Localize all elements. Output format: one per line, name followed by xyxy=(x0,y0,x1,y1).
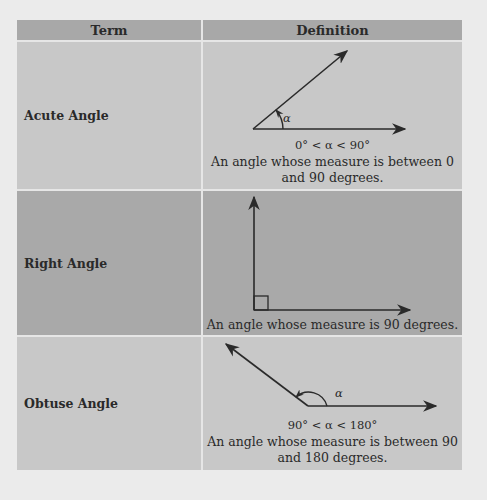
header-term: Term xyxy=(17,20,203,40)
definition-right-angle: An angle whose measure is 90 degrees. xyxy=(203,191,462,335)
description-acute: An angle whose measure is between 0 and … xyxy=(203,154,462,186)
table-row-obtuse: Obtuse Angle α 90° < α < 180° An angle w… xyxy=(17,337,462,470)
term-right-angle: Right Angle xyxy=(17,191,203,335)
header-definition: Definition xyxy=(203,20,462,40)
table-header-row: Term Definition xyxy=(17,20,462,42)
term-acute-angle: Acute Angle xyxy=(17,42,203,189)
condition-acute: 0° < α < 90° xyxy=(203,138,462,152)
definition-acute-angle: α 0° < α < 90° An angle whose measure is… xyxy=(203,42,462,189)
angle-label-alpha: α xyxy=(335,386,365,400)
description-right: An angle whose measure is 90 degrees. xyxy=(203,317,462,333)
angle-terms-table: Term Definition Acute Angle α 0° < α xyxy=(17,20,462,470)
angle-label-alpha: α xyxy=(283,111,313,125)
condition-obtuse: 90° < α < 180° xyxy=(203,418,462,432)
description-obtuse: An angle whose measure is between 90 and… xyxy=(203,434,462,466)
term-obtuse-angle: Obtuse Angle xyxy=(17,337,203,470)
right-angle-diagram-icon xyxy=(203,191,460,337)
definition-obtuse-angle: α 90° < α < 180° An angle whose measure … xyxy=(203,337,462,470)
table-row-acute: Acute Angle α 0° < α < 90° An angle who xyxy=(17,42,462,191)
table-row-right: Right Angle An angle whose measure is 90… xyxy=(17,191,462,337)
